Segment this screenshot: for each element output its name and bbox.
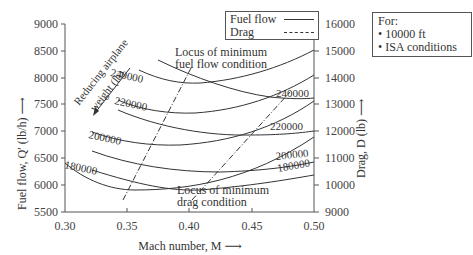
note-isa: • ISA conditions bbox=[378, 41, 466, 54]
svg-text:200000: 200000 bbox=[88, 128, 123, 147]
svg-text:7000: 7000 bbox=[34, 124, 58, 138]
x-axis-label: Mach number, M ⟶ bbox=[138, 239, 241, 253]
right-axis-label: Drag, D (lb) ⟶ bbox=[354, 99, 368, 178]
svg-text:fuel flow condition: fuel flow condition bbox=[175, 57, 267, 71]
svg-text:0.50: 0.50 bbox=[304, 219, 325, 233]
svg-text:6000: 6000 bbox=[34, 178, 58, 192]
svg-text:drag condition: drag condition bbox=[177, 195, 247, 209]
x-axis-ticks: 0.30 0.35 0.40 0.45 0.50 bbox=[55, 219, 325, 233]
weight-labels-right: 240000 220000 200000 180000 bbox=[270, 87, 311, 174]
svg-text:0.35: 0.35 bbox=[117, 219, 138, 233]
svg-text:0.45: 0.45 bbox=[242, 219, 263, 233]
svg-text:10000: 10000 bbox=[325, 178, 355, 192]
legend: Fuel flow Drag bbox=[225, 11, 319, 40]
svg-text:11000: 11000 bbox=[325, 151, 355, 165]
svg-text:8500: 8500 bbox=[34, 44, 58, 58]
svg-text:7500: 7500 bbox=[34, 97, 58, 111]
svg-text:0.40: 0.40 bbox=[179, 219, 200, 233]
svg-text:220000: 220000 bbox=[270, 120, 304, 132]
svg-text:16000: 16000 bbox=[325, 17, 355, 31]
legend-drag: Drag bbox=[230, 26, 314, 39]
locus-min-fuel-flow bbox=[123, 66, 192, 200]
dashed-line-swatch bbox=[284, 32, 314, 33]
svg-text:240000: 240000 bbox=[276, 87, 310, 99]
svg-text:8000: 8000 bbox=[34, 71, 58, 85]
svg-text:9000: 9000 bbox=[325, 205, 349, 219]
svg-text:14000: 14000 bbox=[325, 71, 355, 85]
solid-line-swatch bbox=[284, 19, 314, 20]
svg-text:12000: 12000 bbox=[325, 124, 355, 138]
svg-text:5500: 5500 bbox=[34, 205, 58, 219]
left-axis-ticks: 9000 8500 8000 7500 7000 6500 6000 5500 bbox=[34, 17, 58, 219]
right-axis-ticks: 16000 15000 14000 13000 12000 11000 1000… bbox=[325, 17, 355, 219]
locus-labels: Locus of minimum fuel flow condition Loc… bbox=[175, 45, 270, 209]
svg-text:9000: 9000 bbox=[34, 17, 58, 31]
svg-text:13000: 13000 bbox=[325, 97, 355, 111]
legend-drag-label: Drag bbox=[230, 26, 254, 39]
svg-text:0.30: 0.30 bbox=[55, 219, 76, 233]
conditions-note: For: • 10000 ft • ISA conditions bbox=[372, 12, 472, 57]
left-axis-label: Fuel flow, Q′ (lb/h) ⟶ bbox=[15, 97, 29, 210]
svg-text:6500: 6500 bbox=[34, 151, 58, 165]
svg-text:15000: 15000 bbox=[325, 44, 355, 58]
